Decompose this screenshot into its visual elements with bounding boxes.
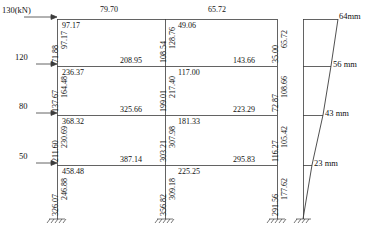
column-moment-middle-s2-bottom: 303.21 bbox=[159, 140, 168, 162]
column-moment-right-s1-top: 177.62 bbox=[280, 178, 289, 200]
column-moment-left-s2-bottom: 211.60 bbox=[51, 140, 60, 162]
column-moment-middle-s2-top: 307.98 bbox=[168, 126, 177, 148]
column-moment-left-s4-bottom: 71.88 bbox=[51, 45, 60, 63]
beam-moment-s1-left-bay-left: 458.48 bbox=[62, 167, 84, 176]
support-right bbox=[267, 219, 286, 223]
column-moment-left-s1-bottom: 326.07 bbox=[51, 194, 60, 216]
beam-moment-s2-right-bay-right: 295.83 bbox=[233, 155, 255, 164]
span-label-left-bay: 79.70 bbox=[100, 5, 118, 14]
deflection-label-level2: 43 mm bbox=[325, 109, 349, 118]
column-moment-left-s2-top: 230.69 bbox=[60, 126, 69, 148]
load-label-level2: 80 bbox=[19, 102, 28, 111]
beam-moment-s3-right-bay-right: 223.29 bbox=[233, 105, 255, 114]
support-middle bbox=[155, 219, 174, 223]
beam-moment-s4-left-bay-right: 208.95 bbox=[120, 56, 142, 65]
beam-moment-s1-right-bay-left: 225.25 bbox=[178, 167, 200, 176]
beam-moment-s2-left-bay-right: 387.14 bbox=[120, 155, 142, 164]
beam-moment-s3-left-bay-right: 325.66 bbox=[120, 105, 142, 114]
column-moment-middle-s3-top: 217.40 bbox=[168, 76, 177, 98]
column-moment-middle-s3-bottom: 199.01 bbox=[159, 90, 168, 112]
column-moment-left-s3-bottom: 137.67 bbox=[51, 90, 60, 112]
support-deflection bbox=[294, 219, 311, 223]
column-moment-right-s3-top: 108.66 bbox=[280, 76, 289, 98]
beam-moment-s4-left-bay-left: 97.17 bbox=[62, 21, 80, 30]
load-label-level4: 130(kN) bbox=[2, 6, 31, 15]
deflection-label-level1: 23 mm bbox=[314, 159, 338, 168]
span-label-right-bay: 65.72 bbox=[208, 5, 226, 14]
load-label-level1: 50 bbox=[19, 152, 28, 161]
column-moment-right-s2-bottom: 116.27 bbox=[271, 140, 280, 162]
column-moment-left-s4-top: 97.17 bbox=[60, 31, 69, 49]
load-label-level3: 120 bbox=[15, 53, 28, 62]
load-arrow-level4 bbox=[24, 15, 57, 20]
column-moment-middle-s4-bottom: 108.54 bbox=[159, 41, 168, 63]
column-moment-right-s3-bottom: 72.87 bbox=[271, 94, 280, 112]
column-moment-right-s4-bottom: 35.00 bbox=[271, 45, 280, 63]
column-moment-right-s2-top: 105.42 bbox=[280, 126, 289, 148]
column-moment-middle-s4-top: 128.76 bbox=[168, 27, 177, 49]
beam-moment-s2-right-bay-left: 181.33 bbox=[178, 117, 200, 126]
beam-moment-s2-left-bay-left: 368.32 bbox=[62, 117, 84, 126]
column-moment-middle-s1-bottom: 356.82 bbox=[159, 194, 168, 216]
column-moment-left-s3-top: 164.48 bbox=[60, 76, 69, 98]
column-moment-right-s4-top: 65.72 bbox=[280, 30, 289, 48]
support-left bbox=[47, 219, 66, 223]
deflection-label-level3: 56 mm bbox=[333, 60, 357, 69]
beam-moment-s4-right-bay-right: 143.66 bbox=[233, 56, 255, 65]
beam-moment-s4-right-bay-left: 49.06 bbox=[178, 21, 196, 30]
deflection-diagram bbox=[294, 19, 338, 223]
deflection-label-level4: 64mm bbox=[339, 12, 361, 21]
figure-canvas: 130(kN) 120 80 50 79.70 65.72 97.17 208.… bbox=[0, 0, 369, 241]
column-moment-right-s1-bottom: 291.56 bbox=[271, 194, 280, 216]
column-moment-middle-s1-top: 309.18 bbox=[168, 178, 177, 200]
column-moment-left-s1-top: 246.88 bbox=[60, 178, 69, 200]
drift-curve bbox=[303, 19, 338, 219]
beam-moment-s3-right-bay-left: 117.00 bbox=[178, 68, 200, 77]
